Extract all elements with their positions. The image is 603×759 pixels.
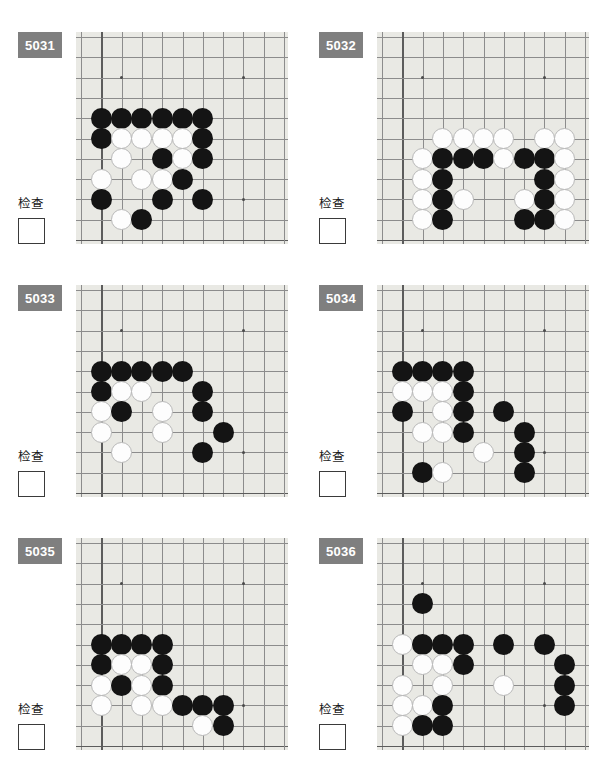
go-board[interactable]: [377, 285, 589, 497]
check-label: 检查: [18, 198, 44, 211]
black-stone: [432, 695, 453, 716]
white-stone: [392, 715, 413, 736]
check-answer-checkbox[interactable]: [18, 471, 45, 497]
white-stone: [432, 128, 453, 149]
black-stone: [172, 108, 193, 129]
star-point: [242, 198, 246, 202]
black-stone: [152, 634, 173, 655]
go-puzzle-5031: 5031检查: [0, 0, 301, 253]
black-stone: [473, 148, 494, 169]
star-point: [421, 329, 425, 333]
black-stone: [172, 361, 193, 382]
star-point: [242, 582, 246, 586]
puzzle-number-badge: 5035: [18, 538, 62, 564]
check-label: 检查: [319, 451, 345, 464]
white-stone: [412, 381, 433, 402]
black-stone: [514, 148, 535, 169]
go-board[interactable]: [377, 538, 589, 750]
check-answer-checkbox[interactable]: [18, 724, 45, 750]
check-answer-checkbox[interactable]: [319, 724, 346, 750]
white-stone: [432, 654, 453, 675]
black-stone: [172, 169, 193, 190]
black-stone: [453, 148, 474, 169]
star-point: [543, 704, 547, 708]
black-stone: [534, 148, 555, 169]
black-stone: [131, 108, 152, 129]
black-stone: [192, 401, 213, 422]
grid-line-horizontal: [76, 746, 288, 747]
white-stone: [453, 189, 474, 210]
go-puzzle-5033: 5033检查: [0, 253, 301, 506]
white-stone: [392, 695, 413, 716]
white-stone: [111, 128, 132, 149]
grid-line-vertical: [524, 538, 525, 750]
grid-line-vertical: [243, 32, 244, 244]
white-stone: [534, 128, 555, 149]
black-stone: [453, 361, 474, 382]
star-point: [543, 76, 547, 80]
go-board[interactable]: [76, 285, 288, 497]
go-board[interactable]: [76, 32, 288, 244]
black-stone: [192, 108, 213, 129]
black-stone: [453, 654, 474, 675]
star-point: [242, 329, 246, 333]
white-stone: [432, 381, 453, 402]
grid-line-vertical: [264, 32, 265, 244]
star-point: [421, 582, 425, 586]
black-stone: [534, 634, 555, 655]
black-stone: [453, 422, 474, 443]
black-stone: [412, 462, 433, 483]
puzzle-number-badge: 5036: [319, 538, 363, 564]
grid-line-vertical: [585, 538, 586, 750]
black-stone: [392, 401, 413, 422]
black-stone: [91, 361, 112, 382]
black-stone: [432, 169, 453, 190]
black-stone: [111, 361, 132, 382]
black-stone: [493, 401, 514, 422]
check-answer-checkbox[interactable]: [319, 471, 346, 497]
white-stone: [131, 128, 152, 149]
grid-line-vertical: [223, 32, 224, 244]
star-point: [421, 76, 425, 80]
white-stone: [111, 209, 132, 230]
black-stone: [91, 108, 112, 129]
white-stone: [152, 401, 173, 422]
white-stone: [554, 169, 575, 190]
black-stone: [412, 361, 433, 382]
board-grid: [377, 285, 589, 497]
white-stone: [432, 422, 453, 443]
board-grid: [76, 285, 288, 497]
black-stone: [192, 189, 213, 210]
black-stone: [534, 169, 555, 190]
go-board[interactable]: [377, 32, 589, 244]
white-stone: [412, 169, 433, 190]
white-stone: [554, 189, 575, 210]
board-grid: [377, 538, 589, 750]
grid-line-vertical: [243, 285, 244, 497]
black-stone: [432, 148, 453, 169]
black-stone: [111, 675, 132, 696]
star-point: [120, 76, 124, 80]
black-stone: [91, 189, 112, 210]
grid-line-vertical: [585, 285, 586, 497]
check-answer-checkbox[interactable]: [319, 218, 346, 244]
white-stone: [91, 695, 112, 716]
black-stone: [432, 634, 453, 655]
check-label: 检查: [319, 198, 345, 211]
go-puzzle-5034: 5034检查: [301, 253, 602, 506]
white-stone: [131, 381, 152, 402]
black-stone: [554, 675, 575, 696]
black-stone: [514, 422, 535, 443]
puzzle-number-badge: 5031: [18, 32, 62, 58]
white-stone: [111, 381, 132, 402]
white-stone: [412, 422, 433, 443]
black-stone: [91, 654, 112, 675]
grid-line-vertical: [243, 538, 244, 750]
go-board[interactable]: [76, 538, 288, 750]
check-answer-checkbox[interactable]: [18, 218, 45, 244]
grid-line-vertical: [284, 32, 285, 244]
grid-line-vertical: [565, 285, 566, 497]
board-grid: [76, 32, 288, 244]
black-stone: [493, 634, 514, 655]
star-point: [242, 451, 246, 455]
